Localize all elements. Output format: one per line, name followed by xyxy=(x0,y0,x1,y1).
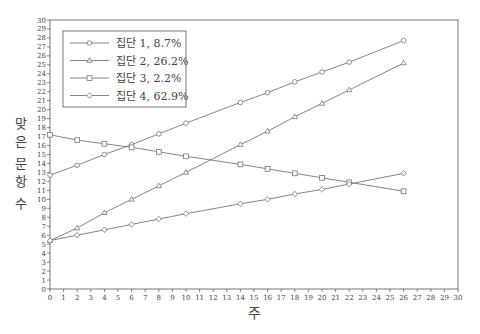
y-tick-label: 29 xyxy=(37,25,46,33)
diamond-marker-icon xyxy=(156,216,161,222)
x-tick-label: 2 xyxy=(75,294,79,302)
triangle-marker-icon xyxy=(401,60,406,65)
y-tick-label: 27 xyxy=(37,43,46,51)
x-tick-label: 5 xyxy=(116,294,120,302)
x-tick-label: 17 xyxy=(277,294,286,302)
circle-marker-icon xyxy=(75,163,80,168)
y-axis-label: 맞은문항수 xyxy=(15,116,27,211)
x-tick-label: 25 xyxy=(386,294,395,302)
y-tick-label: 13 xyxy=(37,169,46,177)
y-tick-label: 30 xyxy=(37,17,46,25)
y-tick-label: 4 xyxy=(42,250,47,258)
diamond-marker-icon xyxy=(102,227,107,233)
y-tick-label: 25 xyxy=(37,61,46,69)
x-tick-label: 22 xyxy=(345,294,354,302)
circle-marker-icon xyxy=(157,132,162,137)
circle-marker-icon xyxy=(320,70,325,75)
x-tick-label: 8 xyxy=(157,294,161,302)
y-tick-label: 0 xyxy=(42,286,46,294)
circle-marker-icon xyxy=(48,173,53,178)
y-tick-label: 14 xyxy=(37,160,46,168)
y-tick-label: 19 xyxy=(37,115,46,123)
x-tick-label: 27 xyxy=(413,294,422,302)
x-tick-label: 18 xyxy=(290,294,299,302)
series-4 xyxy=(47,171,406,244)
x-tick-label: 16 xyxy=(263,294,272,302)
diamond-marker-icon xyxy=(75,232,80,238)
x-tick-label: 10 xyxy=(182,294,191,302)
circle-marker-icon xyxy=(265,90,270,95)
y-tick-label: 22 xyxy=(37,88,46,96)
y-tick-label: 23 xyxy=(37,79,46,87)
x-tick-label: 29 xyxy=(440,294,449,302)
line-chart: 0123456789101112131415161718192021222324… xyxy=(0,0,480,334)
square-marker-icon xyxy=(238,162,243,167)
circle-marker-icon xyxy=(401,38,406,43)
triangle-marker-icon xyxy=(75,225,80,230)
y-tick-label: 28 xyxy=(37,34,46,42)
svg-text:맞: 맞 xyxy=(15,116,27,131)
x-axis-label: 주 xyxy=(248,305,261,321)
square-marker-icon xyxy=(401,189,406,194)
diamond-marker-icon xyxy=(265,197,270,203)
x-tick-label: 20 xyxy=(318,294,327,302)
legend-label: 집단 4, 62.9% xyxy=(116,90,188,103)
legend-label: 집단 3, 2.2% xyxy=(116,72,181,85)
diamond-marker-icon xyxy=(292,191,297,197)
diamond-marker-icon xyxy=(238,201,243,207)
x-tick-label: 0 xyxy=(48,294,52,302)
square-marker-icon xyxy=(129,145,134,150)
svg-text:항: 항 xyxy=(15,174,27,189)
y-tick-label: 26 xyxy=(37,52,46,60)
square-marker-icon xyxy=(320,175,325,180)
y-tick-label: 12 xyxy=(37,178,46,186)
x-tick-label: 4 xyxy=(102,294,107,302)
square-marker-icon xyxy=(75,138,80,143)
square-marker-icon xyxy=(265,166,270,171)
circle-marker-icon xyxy=(293,80,298,85)
legend: 집단 1, 8.7%집단 2, 26.2%집단 3, 2.2%집단 4, 62.… xyxy=(63,31,188,107)
x-tick-label: 13 xyxy=(222,294,231,302)
square-marker-icon xyxy=(87,76,92,81)
square-marker-icon xyxy=(102,141,107,146)
x-tick-label: 30 xyxy=(454,294,463,302)
x-tick-label: 14 xyxy=(236,294,245,302)
x-tick-label: 21 xyxy=(331,294,340,302)
series-3 xyxy=(48,132,406,193)
diamond-marker-icon xyxy=(319,187,324,193)
y-tick-label: 8 xyxy=(42,214,46,222)
x-tick-label: 24 xyxy=(372,294,381,302)
y-tick-label: 16 xyxy=(37,142,46,150)
circle-marker-icon xyxy=(184,121,189,126)
square-marker-icon xyxy=(156,149,161,154)
x-tick-label: 11 xyxy=(195,294,204,302)
x-tick-label: 12 xyxy=(209,294,218,302)
legend-label: 집단 2, 26.2% xyxy=(116,55,188,68)
svg-text:문: 문 xyxy=(15,156,27,171)
circle-marker-icon xyxy=(87,41,92,46)
y-tick-label: 1 xyxy=(42,277,46,285)
legend-label: 집단 1, 8.7% xyxy=(116,37,181,50)
square-marker-icon xyxy=(184,154,189,159)
svg-text:수: 수 xyxy=(15,196,27,211)
y-tick-label: 24 xyxy=(37,70,46,78)
y-tick-label: 6 xyxy=(42,232,47,240)
y-tick-label: 20 xyxy=(37,106,46,114)
x-tick-label: 23 xyxy=(358,294,367,302)
circle-marker-icon xyxy=(347,60,352,65)
diamond-marker-icon xyxy=(401,171,406,177)
x-tick-label: 9 xyxy=(170,294,174,302)
y-tick-label: 21 xyxy=(37,97,46,105)
square-marker-icon xyxy=(48,132,53,137)
y-tick-label: 5 xyxy=(42,241,46,249)
circle-marker-icon xyxy=(238,100,243,105)
x-tick-label: 28 xyxy=(426,294,435,302)
y-tick-label: 18 xyxy=(37,124,46,132)
y-tick-label: 11 xyxy=(37,187,46,195)
y-tick-label: 15 xyxy=(37,151,46,159)
y-tick-label: 3 xyxy=(42,259,46,267)
svg-text:은: 은 xyxy=(15,134,27,149)
x-tick-label: 3 xyxy=(89,294,93,302)
y-tick-label: 17 xyxy=(37,133,46,141)
square-marker-icon xyxy=(292,171,297,176)
